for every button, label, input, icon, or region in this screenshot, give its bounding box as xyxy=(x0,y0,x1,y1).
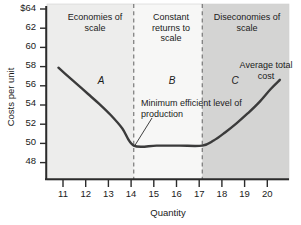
x-axis-title: Quantity xyxy=(47,208,289,218)
region-label-diseconomies-of-scale: Diseconomies of scale xyxy=(207,12,287,33)
segment-letter-a: A xyxy=(92,76,110,87)
x-tick-label-17: 17 xyxy=(189,189,209,199)
y-tick-label-64: $64 xyxy=(6,3,36,13)
x-tick-label-14: 14 xyxy=(121,189,141,199)
x-tick-label-11: 11 xyxy=(53,189,73,199)
average-total-cost-label: Average total cost xyxy=(238,60,294,82)
y-tick-label-60: 60 xyxy=(6,41,36,51)
x-tick-label-15: 15 xyxy=(144,189,164,199)
y-tick-label-48: 48 xyxy=(6,156,36,166)
y-tick-label-50: 50 xyxy=(6,137,36,147)
x-tick-label-20: 20 xyxy=(257,189,277,199)
minimum-efficient-scale-annotation: Minimum efficient level of production xyxy=(141,98,249,120)
x-tick-label-18: 18 xyxy=(212,189,232,199)
x-axis-ticks xyxy=(63,180,267,187)
y-axis-ticks xyxy=(40,9,46,163)
cost-curve-figure: $64 62 60 58 56 54 52 50 48 11 12 13 14 … xyxy=(0,0,301,225)
y-tick-label-62: 62 xyxy=(6,22,36,32)
x-tick-label-19: 19 xyxy=(235,189,255,199)
x-tick-label-13: 13 xyxy=(98,189,118,199)
region-label-economies-of-scale: Economies of scale xyxy=(56,12,134,33)
region-label-constant-returns: Constant returns to scale xyxy=(141,12,201,44)
segment-letter-b: B xyxy=(163,76,181,87)
x-tick-label-16: 16 xyxy=(167,189,187,199)
x-tick-label-12: 12 xyxy=(76,189,96,199)
y-axis-title: Costs per unit xyxy=(6,59,16,135)
